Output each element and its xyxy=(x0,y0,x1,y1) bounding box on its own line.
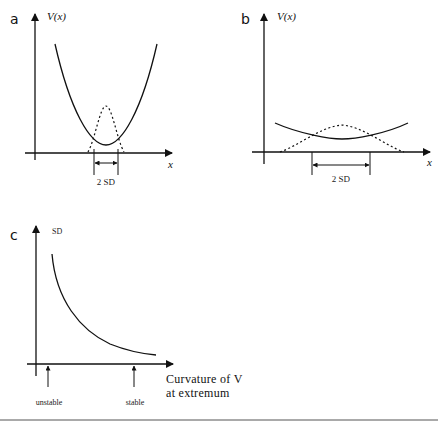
panel-c-label: c xyxy=(10,227,18,243)
panel-b-label: b xyxy=(241,11,250,27)
stable-label: stable xyxy=(126,398,145,407)
panel-c-y-axis-label: SD xyxy=(52,227,62,236)
panel-b-potential-curve xyxy=(275,123,408,139)
panel-b-x-axis-label: x xyxy=(426,156,432,168)
panel-c: c SD Curvature of V at extremum unstable… xyxy=(10,226,243,407)
panel-a-x-axis-label: x xyxy=(167,158,173,170)
panel-a-potential-curve xyxy=(55,44,157,145)
panel-c-x-axis-label-line1: Curvature of V xyxy=(166,372,243,386)
panel-a-sd-label: 2 SD xyxy=(97,177,116,187)
panel-b-sd-label: 2 SD xyxy=(332,174,351,184)
panel-c-x-axis-label-line2: at extremum xyxy=(166,386,230,400)
panel-a: a V(x) x 2 SD xyxy=(10,10,173,187)
panel-a-label: a xyxy=(10,11,19,27)
panel-a-y-axis-label: V(x) xyxy=(47,10,66,23)
panel-c-sd-curve xyxy=(52,254,156,355)
panel-b: b V(x) x 2 SD xyxy=(241,10,432,184)
unstable-label: unstable xyxy=(36,398,63,407)
panel-b-y-axis-label: V(x) xyxy=(277,10,296,23)
figure-canvas: a V(x) x 2 SD b V(x) x 2 SD xyxy=(0,0,443,427)
